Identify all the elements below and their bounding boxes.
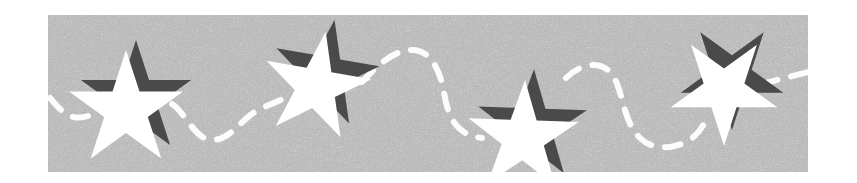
- star-banner-graphic: [0, 0, 857, 183]
- decorative-banner: [0, 0, 857, 183]
